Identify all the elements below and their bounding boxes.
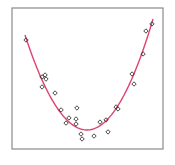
plot-frame — [12, 8, 163, 149]
scatter-chart — [0, 0, 175, 165]
